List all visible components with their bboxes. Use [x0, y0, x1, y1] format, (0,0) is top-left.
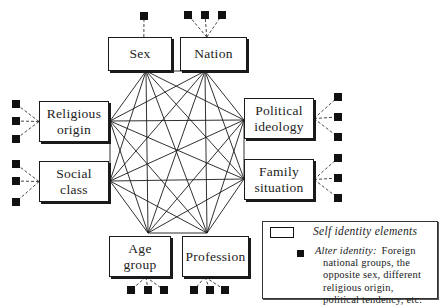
alter-identity-square-icon [12, 135, 20, 143]
legend-alter-title: Alter identity: [315, 245, 377, 256]
self-element-label-line: Nation [194, 46, 233, 62]
alter-identity-square-icon [184, 11, 192, 19]
self-element-label: Sex [129, 46, 150, 62]
legend-alter-line: religious origin, [315, 282, 437, 294]
connection-line [205, 71, 244, 120]
self-element-nation: Nation [180, 37, 247, 71]
self-element-label: Socialclass [56, 166, 92, 198]
self-element-label-line: Political [254, 103, 304, 119]
connection-line [148, 71, 205, 233]
self-element-label-line: situation [254, 180, 303, 196]
self-element-label-line: ideology [254, 119, 304, 135]
alter-identity-square-icon [334, 133, 342, 141]
legend-alter-line: opposite sex, different [315, 269, 437, 281]
alter-identity-square-icon [12, 117, 20, 125]
self-element-religious-origin: Religiousorigin [39, 101, 109, 142]
connection-line [110, 71, 146, 181]
connection-line [207, 179, 244, 233]
identity-diagram: SexNationReligiousoriginSocialclassPolit… [0, 0, 442, 308]
self-element-label-line: class [56, 182, 92, 198]
alter-identity-square-icon [190, 286, 198, 294]
interconnection-lines [110, 71, 244, 233]
alter-identity-square-icon [160, 286, 168, 294]
self-element-label: Religiousorigin [47, 106, 101, 138]
self-element-label-line: group [124, 257, 157, 273]
self-element-label: Familysituation [254, 164, 303, 196]
connection-line [146, 71, 244, 120]
alter-identity-square-icon [12, 100, 20, 108]
alter-identity-square-icon [334, 93, 342, 101]
connection-line [110, 181, 207, 233]
alter-identity-square-icon [334, 174, 342, 182]
connection-line [110, 120, 244, 181]
alter-identity-square-icon [140, 12, 148, 20]
self-element-label-line: Religious [47, 106, 101, 122]
connection-line [205, 71, 244, 179]
legend-alter-line: national groups, the [315, 257, 437, 269]
legend: Self identity elements Alter identity:Fo… [262, 221, 438, 299]
alter-identity-square-icon [206, 286, 214, 294]
alter-identity-square-icon [12, 198, 20, 206]
alter-identity-square-icon [12, 177, 20, 185]
alter-identity-swatch-icon [297, 250, 304, 257]
alter-identity-square-icon [218, 11, 226, 19]
alter-identity-square-icon [201, 11, 209, 19]
self-element-label: Nation [194, 46, 233, 62]
legend-self-label: Self identity elements [313, 225, 417, 237]
alter-identity-square-icon [334, 194, 342, 202]
connection-line [148, 120, 244, 233]
self-element-sex: Sex [108, 37, 172, 71]
connection-line [110, 121, 207, 233]
self-element-label: Profession [186, 249, 246, 265]
connection-line [146, 71, 244, 179]
self-element-political-ideology: Politicalideology [244, 98, 314, 139]
alter-identity-square-icon [334, 154, 342, 162]
self-element-family-situation: Familysituation [244, 159, 314, 200]
self-element-label-line: Age [124, 241, 157, 257]
connection-line [110, 121, 244, 179]
connection-line [110, 181, 148, 233]
self-element-label-line: Family [254, 164, 303, 180]
legend-alter-line: political tendency, etc. [315, 294, 437, 306]
self-element-age-group: Agegroup [109, 236, 171, 277]
connection-line [110, 71, 146, 121]
alter-identity-square-icon [144, 286, 152, 294]
connection-line [146, 71, 148, 233]
self-element-label-line: Sex [129, 46, 150, 62]
self-identity-swatch-icon [270, 227, 294, 238]
connection-line [110, 121, 148, 233]
connection-line [110, 71, 205, 181]
legend-alter-first: Foreign [382, 245, 416, 256]
self-element-social-class: Socialclass [39, 161, 109, 202]
connection-line [110, 71, 205, 121]
connection-line [148, 179, 244, 233]
self-element-label-line: origin [47, 122, 101, 138]
self-element-label: Politicalideology [254, 103, 304, 135]
legend-alter-description: Alter identity:Foreign national groups, … [315, 245, 437, 306]
alter-identity-square-icon [127, 286, 135, 294]
alter-identity-square-icon [12, 160, 20, 168]
connection-line [205, 71, 207, 233]
alter-identity-square-icon [334, 113, 342, 121]
self-element-label-line: Profession [186, 249, 246, 265]
alter-identity-square-icon [221, 286, 229, 294]
self-element-label: Agegroup [124, 241, 157, 273]
self-element-profession: Profession [182, 236, 249, 277]
self-element-label-line: Social [56, 166, 92, 182]
